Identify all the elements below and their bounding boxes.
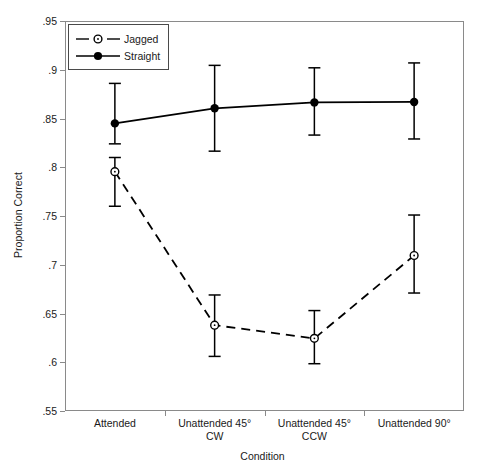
y-axis-title: Proportion Correct bbox=[10, 65, 26, 365]
y-tick-mark bbox=[60, 21, 65, 22]
y-tick: .75 bbox=[0, 216, 65, 217]
plot-area bbox=[65, 21, 464, 411]
y-tick-mark bbox=[60, 216, 65, 217]
y-tick-label: .75 bbox=[42, 208, 57, 224]
y-tick: .95 bbox=[0, 21, 65, 22]
y-tick-mark bbox=[60, 314, 65, 315]
chart-legend: Jagged Straight bbox=[68, 24, 169, 70]
y-tick: .85 bbox=[0, 119, 65, 120]
x-tick-label: Attended bbox=[65, 417, 165, 430]
legend-key-solid-filled-circle-icon bbox=[75, 49, 121, 63]
figure-container: Proportion Correct .95.9.85.8.75.7.65.6.… bbox=[0, 0, 478, 473]
y-tick-mark bbox=[60, 167, 65, 168]
legend-label-jagged: Jagged bbox=[124, 32, 158, 46]
x-tick-mark bbox=[265, 411, 266, 416]
y-tick-label: .6 bbox=[48, 354, 57, 370]
x-tick-mark bbox=[165, 411, 166, 416]
y-tick-mark bbox=[60, 119, 65, 120]
x-tick-label-line1: Unattended 45° bbox=[165, 417, 265, 430]
x-axis-title: Condition bbox=[60, 450, 465, 462]
x-tick-label-line2: CCW bbox=[265, 430, 365, 443]
y-tick: .6 bbox=[0, 362, 65, 363]
x-tick-label: Unattended 45°CCW bbox=[265, 417, 365, 443]
y-tick: .9 bbox=[0, 70, 65, 71]
y-tick-mark bbox=[60, 70, 65, 71]
y-tick: .8 bbox=[0, 167, 65, 168]
legend-label-straight: Straight bbox=[124, 49, 160, 63]
y-tick-label: .8 bbox=[48, 159, 57, 175]
y-tick: .7 bbox=[0, 265, 65, 266]
y-tick-label: .65 bbox=[42, 306, 57, 322]
x-tick-label-line1: Unattended 45° bbox=[265, 417, 365, 430]
legend-item-straight: Straight bbox=[75, 47, 160, 64]
y-tick-mark bbox=[60, 411, 65, 412]
x-tick-label: Unattended 45°CW bbox=[165, 417, 265, 443]
y-tick: .65 bbox=[0, 314, 65, 315]
y-tick-label: .85 bbox=[42, 111, 57, 127]
x-tick-label-line1: Unattended 90° bbox=[364, 417, 464, 430]
legend-key-dashed-open-circle-icon bbox=[75, 32, 121, 46]
y-tick-mark bbox=[60, 362, 65, 363]
legend-item-jagged: Jagged bbox=[75, 30, 160, 47]
x-tick-mark bbox=[364, 411, 365, 416]
y-tick-label: .55 bbox=[42, 403, 57, 419]
y-tick-mark bbox=[60, 265, 65, 266]
y-axis-title-text: Proportion Correct bbox=[10, 65, 26, 365]
x-tick-label-line2: CW bbox=[165, 430, 265, 443]
x-tick-label-line1: Attended bbox=[65, 417, 165, 430]
y-tick-label: .9 bbox=[48, 62, 57, 78]
x-tick-label: Unattended 90° bbox=[364, 417, 464, 430]
y-tick-label: .7 bbox=[48, 257, 57, 273]
y-tick: .55 bbox=[0, 411, 65, 412]
y-tick-label: .95 bbox=[42, 13, 57, 29]
